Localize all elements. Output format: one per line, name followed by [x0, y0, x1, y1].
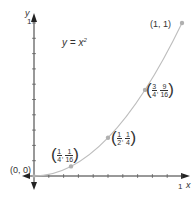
point-one-one [180, 21, 184, 25]
half-label: ( 12 , 14 ) [111, 128, 136, 148]
point-origin [32, 174, 36, 178]
quarter-label: ( 14 , 116 ) [51, 145, 79, 165]
frac-den: 16 [160, 91, 168, 98]
three-quarter-label: ( 34 , 916 ) [146, 80, 174, 100]
x-axis-label: x [186, 180, 191, 190]
x-axis-arrow-right [181, 173, 190, 179]
y-axis-arrow-down [31, 182, 37, 190]
y-axis-arrow-up [31, 13, 37, 22]
origin-label: (0, 0) [10, 165, 31, 175]
y-one-label: 1 [27, 17, 31, 26]
point-half [106, 136, 110, 140]
frac-num: 1 [65, 148, 73, 156]
equation-label: y = x2 [62, 37, 87, 48]
frac-num: 9 [160, 83, 168, 91]
equation-exponent: 2 [83, 37, 86, 43]
equation-lhs: y = x [62, 37, 83, 48]
x-one-label: 1 [178, 182, 182, 191]
frac-den: 16 [65, 156, 73, 163]
one-one-label: (1, 1) [150, 19, 171, 29]
